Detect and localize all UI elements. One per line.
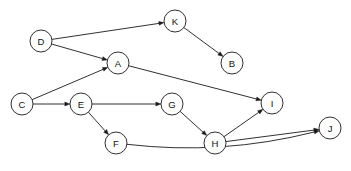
node-a-label: A bbox=[115, 58, 122, 69]
edge-e-to-g-arrowhead-icon bbox=[156, 102, 161, 106]
node-b[interactable]: B bbox=[221, 52, 243, 74]
node-h[interactable]: H bbox=[204, 132, 226, 154]
node-g-label: G bbox=[168, 99, 175, 110]
edge-c-to-a bbox=[32, 69, 103, 99]
node-d[interactable]: D bbox=[30, 30, 52, 52]
edge-h-to-i-arrowhead-icon bbox=[258, 109, 263, 114]
edge-e-to-f bbox=[88, 112, 105, 131]
node-a[interactable]: A bbox=[107, 52, 129, 74]
node-j[interactable]: J bbox=[319, 117, 341, 139]
edge-c-to-a-arrowhead-icon bbox=[102, 67, 108, 71]
edge-g-to-h bbox=[180, 111, 203, 132]
node-i[interactable]: I bbox=[261, 92, 283, 114]
node-k[interactable]: K bbox=[164, 10, 186, 32]
node-h-label: H bbox=[212, 138, 219, 149]
edge-a-to-i-arrowhead-icon bbox=[256, 97, 262, 101]
nodes-layer: DKABCEGIFHJ bbox=[11, 10, 341, 154]
node-f[interactable]: F bbox=[105, 132, 127, 154]
node-g[interactable]: G bbox=[161, 93, 183, 115]
node-c-label: C bbox=[19, 99, 26, 110]
edge-k-to-b-arrowhead-icon bbox=[218, 52, 223, 57]
edge-h-to-j bbox=[226, 130, 314, 141]
edges-layer bbox=[32, 21, 319, 147]
node-c[interactable]: C bbox=[11, 93, 33, 115]
node-d-label: D bbox=[38, 36, 45, 47]
node-f-label: F bbox=[113, 138, 119, 149]
edge-d-to-a-arrowhead-icon bbox=[102, 57, 108, 61]
directed-graph-diagram: DKABCEGIFHJ bbox=[0, 0, 351, 171]
node-j-label: J bbox=[328, 123, 333, 134]
edge-c-to-e-arrowhead-icon bbox=[65, 102, 70, 106]
edge-d-to-k bbox=[52, 23, 159, 39]
edge-d-to-k-arrowhead-icon bbox=[159, 21, 164, 25]
edge-h-to-i bbox=[224, 112, 259, 136]
node-e-label: E bbox=[78, 99, 84, 110]
edge-k-to-b bbox=[184, 28, 219, 54]
node-i-label: I bbox=[271, 98, 274, 109]
node-b-label: B bbox=[229, 58, 235, 69]
edge-d-to-a bbox=[52, 44, 103, 59]
node-e[interactable]: E bbox=[70, 93, 92, 115]
edge-f-to-j-arrowhead-icon bbox=[314, 130, 320, 134]
node-k-label: K bbox=[172, 16, 179, 27]
